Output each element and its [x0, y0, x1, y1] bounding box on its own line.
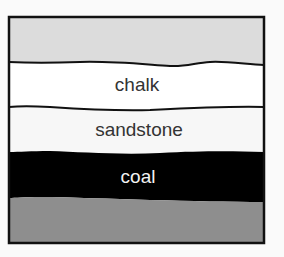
- sandstone-label: sandstone: [95, 119, 183, 140]
- top-rock-layer: [9, 17, 264, 66]
- chalk-label: chalk: [115, 74, 160, 95]
- coal-label: coal: [121, 166, 156, 187]
- bottom-rock-layer: [9, 197, 264, 243]
- rock-strata-diagram: chalk sandstone coal: [0, 0, 284, 257]
